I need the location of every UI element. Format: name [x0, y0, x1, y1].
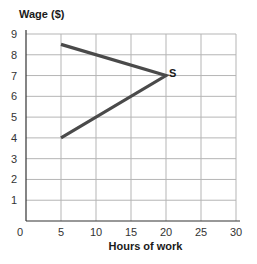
y-tick-label: 6: [11, 90, 17, 102]
supply-curve: S: [61, 44, 176, 138]
y-tick-label: 2: [11, 173, 17, 185]
grid-lines: [26, 34, 236, 221]
y-tick-label: 4: [11, 132, 17, 144]
x-tick-label: 30: [230, 226, 242, 238]
y-tick-label: 7: [11, 70, 17, 82]
supply-curve-chart: 123456789 051015202530 S: [0, 0, 257, 264]
x-tick-label: 15: [125, 226, 137, 238]
x-tick-labels: 051015202530: [17, 226, 242, 238]
x-tick-label: 0: [17, 226, 23, 238]
x-tick-label: 20: [160, 226, 172, 238]
y-tick-label: 3: [11, 153, 17, 165]
supply-curve-label: S: [169, 67, 176, 79]
x-axis-title: Hours of work: [0, 240, 257, 252]
x-tick-label: 25: [195, 226, 207, 238]
axes: [26, 30, 240, 221]
x-tick-label: 10: [90, 226, 102, 238]
y-tick-label: 9: [11, 28, 17, 40]
y-tick-labels: 123456789: [11, 28, 17, 206]
y-tick-label: 8: [11, 49, 17, 61]
x-tick-label: 5: [58, 226, 64, 238]
supply-curve-line: [61, 44, 166, 138]
y-tick-label: 5: [11, 111, 17, 123]
y-tick-label: 1: [11, 194, 17, 206]
